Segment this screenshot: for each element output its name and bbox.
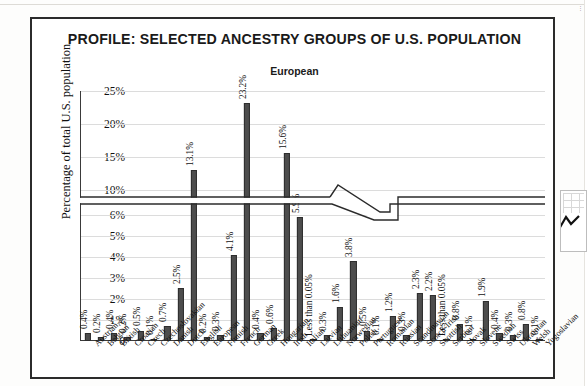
bar-series: 0.4%0.2%0.4%0.2%0.5%0.1%0.7%2.5%13.1%0.2… [81, 91, 545, 341]
x-axis-label: Croatian [132, 341, 139, 348]
bar-value-label: 0.2% [92, 313, 102, 332]
x-axis-label: Italian [304, 341, 311, 348]
bar-group[interactable]: 2.5% [174, 91, 187, 341]
bar-value-label: 0.8% [517, 301, 527, 320]
x-axis-label: Hungarian [278, 341, 285, 348]
x-axis-label: Yugoslavian [543, 341, 550, 348]
x-axis-label: Dutch [185, 341, 192, 348]
x-axis-label: German [251, 341, 258, 348]
bar[interactable] [244, 103, 250, 341]
bar-value-label: 15.6% [278, 125, 288, 149]
bar-group[interactable]: 0.5% [360, 91, 373, 341]
bar-group[interactable]: 0.4% [254, 91, 267, 341]
bar-group[interactable]: 2.3% [413, 91, 426, 341]
bar-group[interactable]: 0.1% [466, 91, 479, 341]
bar-group[interactable]: 4.1% [227, 91, 240, 341]
bar-value-label: 13.1% [185, 142, 195, 166]
fragment-zigzag-icon [560, 215, 585, 233]
y-axis-title: Percentage of total U.S. population [59, 12, 74, 252]
x-axis-label: Belgian [105, 341, 112, 348]
bar-value-label: 1.2% [384, 292, 394, 311]
figure-frame: PROFILE: SELECTED ANCESTRY GROUPS OF U.S… [30, 17, 555, 379]
bar-value-label: 0.5% [132, 307, 142, 326]
x-axis-label: Scandinavian [411, 341, 418, 348]
bar-group[interactable]: 1.9% [480, 91, 493, 341]
chart-subtitle: European [32, 65, 557, 77]
bar-group[interactable]: 0.4% [81, 91, 94, 341]
bar-value-label: 3.8% [344, 238, 354, 257]
bar-value-label: 0.4% [79, 309, 89, 328]
x-axis-label: Welsh [530, 341, 537, 348]
bar-group[interactable]: 0.2% [121, 91, 134, 341]
bar-group[interactable]: 0.5% [134, 91, 147, 341]
bar-group[interactable]: 0.4% [493, 91, 506, 341]
bar-group[interactable]: 0.8% [519, 91, 532, 341]
adjacent-figure-fragment [560, 190, 587, 252]
bar-value-label: 23.2% [238, 75, 248, 99]
x-axis-label: Finnish [225, 341, 232, 348]
bar-group[interactable]: 0.3% [400, 91, 413, 341]
x-axis-label: Scotch-Irish [424, 341, 431, 348]
bar-value-label: 0.7% [158, 303, 168, 322]
x-axis-label: Austrian [92, 341, 99, 348]
bar-group[interactable]: 15.6% [280, 91, 293, 341]
page-title: PROFILE: SELECTED ANCESTRY GROUPS OF U.S… [32, 31, 557, 47]
x-axis-label: Greek [264, 341, 271, 348]
bar-value-label: 1.9% [477, 278, 487, 297]
bar-value-label: 2.3% [411, 269, 421, 288]
bar-value-label: 2.2% [424, 271, 434, 290]
bar-group[interactable]: 23.2% [240, 91, 253, 341]
bar-group[interactable]: 0.2% [94, 91, 107, 341]
bar-group[interactable]: 1.6% [333, 91, 346, 341]
x-axis-label: Romanian [384, 341, 391, 348]
bar-group[interactable]: 0.3% [320, 91, 333, 341]
page-top-rule [0, 4, 585, 5]
fragment-grid [563, 193, 584, 213]
x-axis-label: Lithuanian [331, 341, 338, 348]
x-axis-category-labels: AustrianBelgianBritishCroatianCzechCzech… [81, 341, 546, 386]
bar-group[interactable]: 0.1% [533, 91, 546, 341]
x-axis-label: Serbian [450, 341, 457, 348]
x-axis-label: Slovene [477, 341, 484, 348]
bar-group[interactable]: 1.2% [387, 91, 400, 341]
x-axis-label: Danish [171, 341, 178, 348]
x-axis-label: Czech [145, 341, 152, 348]
bar-value-label: 4.1% [225, 231, 235, 250]
bar-group[interactable]: 0.7% [161, 91, 174, 341]
bar[interactable] [85, 333, 91, 341]
bar-value-label: 5.9% [291, 193, 301, 212]
x-axis-label: Ukrainian [517, 341, 524, 348]
bar-group[interactable]: 0.4% [108, 91, 121, 341]
x-axis-label: Polish [357, 341, 364, 348]
x-axis-label: Portuguese [371, 341, 378, 348]
x-axis-label: French [238, 341, 245, 348]
x-axis-label: Swedish [490, 341, 497, 348]
bar-value-label: 1.6% [331, 284, 341, 303]
x-axis-label: English [198, 341, 205, 348]
x-axis-label: Czechoslovakian [158, 341, 165, 348]
plot-area: 01%2%3%4%5%6%10%15%20%25% 0.4%0.2%0.4%0.… [80, 91, 545, 341]
bar-group[interactable]: 3.8% [347, 91, 360, 341]
bar-group[interactable]: 0.3% [214, 91, 227, 341]
scan-artifact-dots: ⋮ [578, 6, 583, 11]
x-axis-label: Scottish [437, 341, 444, 348]
x-axis-label: British [118, 341, 125, 348]
bar[interactable] [284, 153, 290, 341]
x-axis-label: Swiss [504, 341, 511, 348]
x-axis-label: Norwegian [344, 341, 351, 348]
x-axis-label: Russian [397, 341, 404, 348]
bar-group[interactable]: Less than 0.05% [307, 91, 320, 341]
bar-group[interactable]: 0.8% [453, 91, 466, 341]
x-axis-label: Slovak [464, 341, 471, 348]
x-axis-label: European [211, 341, 218, 348]
x-axis-label: Latvian [318, 341, 325, 348]
bar-value-label: 2.5% [172, 265, 182, 284]
x-axis-label: Irish [291, 341, 298, 348]
